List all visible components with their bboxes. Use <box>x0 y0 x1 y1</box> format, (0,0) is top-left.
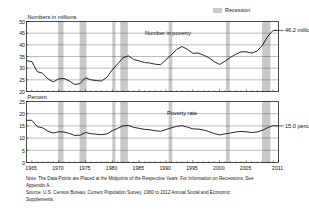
tick-label: 2005 <box>240 165 252 171</box>
tick-label: 1980 <box>106 165 118 171</box>
tick-label: 1975 <box>79 165 91 171</box>
footnote-note: Note: The Data Points are Placed at the … <box>26 176 256 189</box>
recession-legend-swatch <box>213 8 222 13</box>
recession-band <box>112 102 115 163</box>
recession-band <box>262 102 271 163</box>
series-label-number-in-poverty: Number in poverty <box>145 30 191 36</box>
tick-label: 50 <box>0 19 25 25</box>
tick-label: 25 <box>0 99 25 105</box>
tick-label: 45 <box>0 30 25 36</box>
end-value-label-poverty-rate: 15.0 percent <box>285 123 309 129</box>
tick-label: 35 <box>0 54 25 60</box>
tick-label: 15 <box>0 123 25 129</box>
end-value-label-number-in-poverty: 46.2 million <box>285 27 309 33</box>
tick-label: 30 <box>0 65 25 71</box>
footnotes: Note: The Data Points are Placed at the … <box>26 176 256 204</box>
tick-label: 2000 <box>213 165 225 171</box>
tick-label: 5 <box>0 148 25 154</box>
recession-band <box>120 102 128 163</box>
tick-label: 1995 <box>186 165 198 171</box>
tick-label: 40 <box>0 42 25 48</box>
tick-label: 1965 <box>25 165 37 171</box>
recession-legend-label: Recession <box>225 7 250 13</box>
tick-label: 20 <box>0 111 25 117</box>
series-label-poverty-rate: Poverty rate <box>167 110 197 116</box>
tick-label: 1990 <box>159 165 171 171</box>
recession-band <box>80 102 87 163</box>
tick-label: 10 <box>0 135 25 141</box>
tick-label: 25 <box>0 77 25 83</box>
tick-label: 1970 <box>52 165 64 171</box>
tick-label: 1985 <box>133 165 145 171</box>
tick-label: 20 <box>0 89 25 95</box>
axis-title-percent: Percent <box>28 94 47 100</box>
recession-band <box>226 102 230 163</box>
axis-title-numbers-in-millions: Numbers in millions <box>28 14 77 20</box>
footnote-source: Source: U.S. Census Bureau, Current Popu… <box>26 190 256 203</box>
tick-label: 0 <box>0 160 25 166</box>
tick-label: 2011 <box>272 165 283 171</box>
